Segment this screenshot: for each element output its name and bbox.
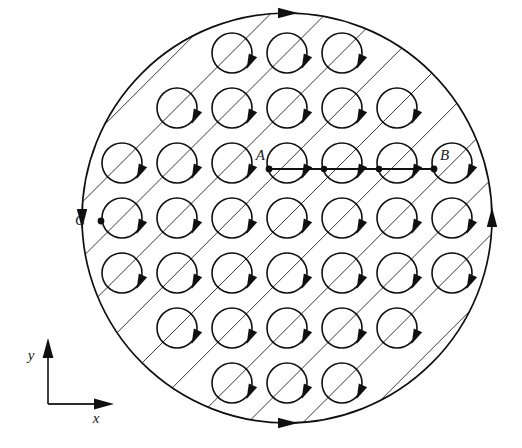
point-label-B: B [440, 147, 449, 163]
current-loop [212, 253, 257, 293]
loop-arrowhead [137, 218, 148, 234]
current-loop [102, 198, 147, 238]
loop-arrowhead [302, 53, 313, 69]
loop-arrowhead [137, 163, 148, 179]
field-line [117, 48, 402, 333]
y-axis-arrowhead [43, 338, 54, 358]
current-loop [267, 33, 312, 73]
loop-arrowhead [302, 328, 313, 344]
point-dot-B [431, 166, 438, 173]
current-loop [102, 253, 147, 293]
current-loop [102, 143, 147, 183]
point-label-C: C [75, 212, 86, 228]
current-loop [322, 363, 367, 403]
current-loop [267, 253, 312, 293]
field-line [98, 29, 366, 297]
field-line [104, 35, 193, 124]
loop-arrowhead [412, 218, 423, 234]
current-loop [267, 363, 312, 403]
boundary-arrowhead [278, 418, 298, 428]
current-loop [377, 143, 422, 183]
loop-arrowhead [467, 218, 478, 234]
current-loop [267, 308, 312, 348]
current-loop [212, 88, 257, 128]
current-loop [212, 308, 257, 348]
loop-arrowhead [247, 328, 258, 344]
point-dot-A [266, 166, 273, 173]
current-loop [322, 33, 367, 73]
field-line [142, 73, 432, 363]
labeled-point-A: A [255, 147, 273, 172]
y-axis-label: y [26, 347, 35, 363]
coordinate-axes: y x [26, 338, 114, 426]
current-loop [377, 253, 422, 293]
loop-arrowhead [357, 383, 368, 399]
diagonal-field-lines [83, 14, 492, 423]
loop-arrowhead [247, 163, 258, 179]
boundary-arrowhead [278, 8, 298, 18]
loop-arrowhead [412, 328, 423, 344]
loop-arrowhead [412, 108, 423, 124]
loop-arrowhead [412, 163, 423, 179]
current-loop [377, 308, 422, 348]
current-loop [157, 88, 202, 128]
loop-arrowhead [467, 163, 478, 179]
loop-arrowhead [302, 273, 313, 289]
current-loop [157, 253, 202, 293]
loop-arrowhead [247, 383, 258, 399]
loop-arrowhead [247, 218, 258, 234]
current-loop [212, 33, 257, 73]
current-loop [322, 253, 367, 293]
field-line [251, 182, 489, 420]
current-loop [322, 308, 367, 348]
loop-arrowhead [137, 273, 148, 289]
loop-arrowhead [192, 273, 203, 289]
field-line [208, 139, 476, 407]
labeled-point-C: C [75, 212, 104, 228]
current-loop [157, 308, 202, 348]
current-loop [267, 198, 312, 238]
loop-arrowhead [467, 273, 478, 289]
loop-arrowhead [192, 108, 203, 124]
loop-arrowhead [302, 383, 313, 399]
boundary-arrowhead [487, 207, 497, 227]
x-axis-label: x [92, 410, 100, 426]
loop-arrowhead [192, 163, 203, 179]
loop-arrowhead [247, 108, 258, 124]
current-loop [322, 143, 367, 183]
field-line [83, 14, 271, 202]
current-loop [322, 198, 367, 238]
loop-arrowhead [357, 218, 368, 234]
field-line [380, 311, 469, 400]
segment-intermediate-dot [376, 166, 382, 172]
loop-arrowhead [247, 273, 258, 289]
loop-arrowhead [412, 273, 423, 289]
current-loop [157, 143, 202, 183]
loop-arrowhead [357, 53, 368, 69]
current-loop [212, 363, 257, 403]
field-line [172, 103, 457, 388]
current-loop [212, 143, 257, 183]
current-loop [377, 198, 422, 238]
physics-diagram: ABC y x [0, 0, 522, 448]
current-loop [267, 88, 312, 128]
loop-arrowhead [357, 163, 368, 179]
current-loop-grid [102, 33, 477, 403]
loop-arrowhead [302, 108, 313, 124]
segment-AB [269, 166, 434, 172]
segment-intermediate-dot [321, 166, 327, 172]
point-label-A: A [255, 147, 266, 163]
current-loop [377, 88, 422, 128]
current-loop [432, 143, 477, 183]
figure-root: ABC y x [0, 0, 522, 448]
x-axis-arrowhead [94, 399, 114, 410]
loop-arrowhead [192, 218, 203, 234]
field-line [85, 16, 323, 254]
loop-arrowhead [357, 273, 368, 289]
loop-arrowhead [357, 108, 368, 124]
loop-arrowhead [247, 53, 258, 69]
current-loop [157, 198, 202, 238]
current-loop [267, 143, 312, 183]
loop-arrowhead [192, 328, 203, 344]
current-loop [322, 88, 367, 128]
